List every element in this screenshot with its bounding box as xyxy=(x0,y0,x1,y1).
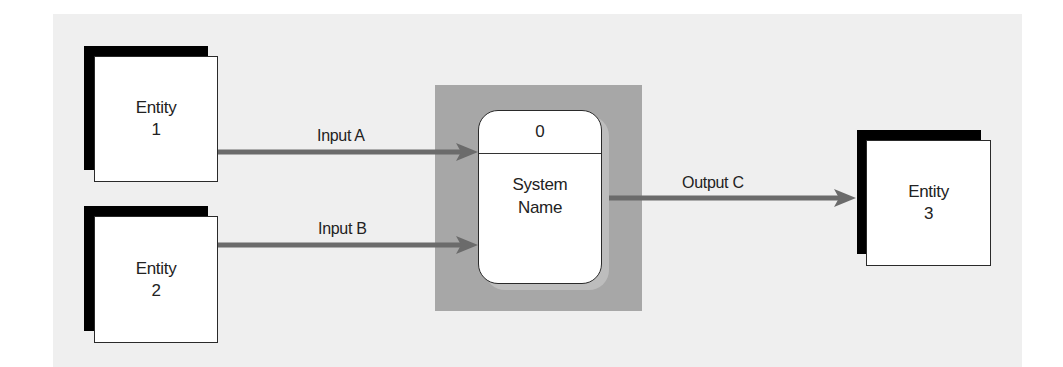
flow-label-input-b: Input B xyxy=(318,220,367,238)
flow-label-output-c: Output C xyxy=(682,174,744,192)
arrow-input-a xyxy=(218,143,478,161)
flow-arrows xyxy=(0,0,1063,367)
flow-label-input-a: Input A xyxy=(317,127,365,145)
arrow-input-b xyxy=(218,236,478,254)
